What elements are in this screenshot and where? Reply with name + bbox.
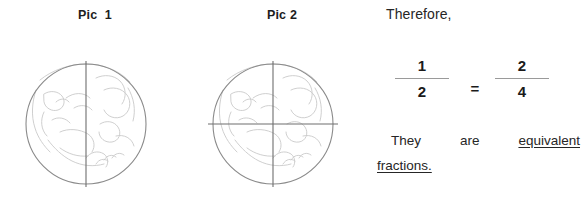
fraction-equation: 1 2 = 2 4	[377, 56, 583, 110]
pic-2-label: Pic 2	[187, 8, 377, 22]
conclusion-word-fractions: fractions.	[377, 158, 432, 173]
pic-1-panel: Pic 1	[0, 0, 190, 197]
numerator-left: 1	[395, 56, 449, 76]
pic-1-figure	[0, 28, 190, 188]
equals-sign: =	[461, 80, 489, 97]
explanation-column: Therefore, 1 2 = 2 4 They are equivalent…	[377, 0, 583, 197]
denominator-right: 4	[495, 82, 549, 102]
pic-2-panel: Pic 2	[187, 0, 377, 197]
conclusion-paragraph: They are equivalent fractions.	[377, 128, 580, 178]
conclusion-word-equivalent: equivalent	[518, 128, 580, 153]
moon-texture-group-2	[219, 64, 321, 167]
fraction-one-half: 1 2	[395, 56, 449, 102]
conclusion-word-they: They	[391, 128, 421, 153]
denominator-left: 2	[395, 82, 449, 102]
pic-1-label: Pic 1	[0, 8, 190, 22]
numerator-right: 2	[495, 56, 549, 76]
fraction-bar-right	[495, 78, 549, 79]
conclusion-word-are: are	[460, 128, 480, 153]
fraction-two-fourths: 2 4	[495, 56, 549, 102]
conclusion-line-2: fractions.	[377, 153, 580, 178]
therefore-text: Therefore,	[386, 6, 452, 22]
fraction-lesson-slide: Pic 1	[0, 0, 583, 197]
conclusion-line-1: They are equivalent	[377, 128, 580, 153]
fraction-bar-left	[395, 78, 449, 79]
pic-2-figure	[187, 28, 377, 188]
moon-texture-group-1	[32, 64, 134, 167]
